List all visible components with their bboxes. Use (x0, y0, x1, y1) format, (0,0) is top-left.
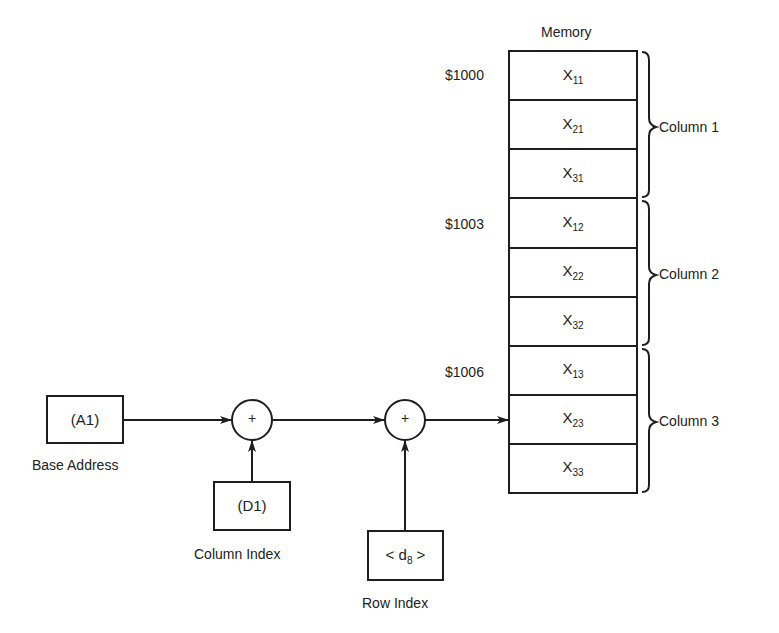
column-group-label: Column 3 (659, 413, 719, 429)
address-label: $1003 (445, 216, 484, 232)
memory-cell: X31 (509, 164, 637, 184)
cell-sub: 13 (572, 369, 583, 380)
memory-cell: X23 (509, 409, 637, 429)
address-label: $1006 (445, 364, 484, 380)
cell-sub: 22 (572, 271, 583, 282)
memory-cell: X11 (509, 66, 637, 86)
cell-sub: 21 (572, 124, 583, 135)
cell-var: X (562, 458, 572, 475)
column-register-text: (D1) (214, 497, 290, 514)
column-braces (642, 52, 656, 492)
cell-var: X (562, 213, 572, 230)
row-index-caption: Row Index (362, 595, 428, 611)
adder-1-symbol: + (242, 410, 262, 426)
memory-cell: X12 (509, 213, 637, 233)
row-displacement-text: < d8 > (368, 546, 443, 566)
column-group-label: Column 1 (659, 119, 719, 135)
row-disp-prefix: < d (386, 546, 407, 563)
memory-cell: X21 (509, 115, 637, 135)
cell-var: X (563, 66, 573, 83)
brace-column-1 (642, 52, 656, 197)
memory-cell: X13 (509, 360, 637, 380)
cell-var: X (562, 262, 572, 279)
memory-cell: X22 (509, 262, 637, 282)
base-register-text: (A1) (47, 411, 123, 428)
cell-sub: 33 (572, 467, 583, 478)
memory-title: Memory (541, 24, 592, 40)
address-label: $1000 (445, 67, 484, 83)
cell-sub: 11 (573, 75, 583, 86)
base-address-caption: Base Address (32, 457, 118, 473)
row-disp-suffix: > (412, 546, 425, 563)
adder-2-symbol: + (395, 410, 415, 426)
cell-var: X (562, 115, 572, 132)
diagram-canvas (0, 0, 779, 633)
cell-var: X (562, 409, 572, 426)
column-index-caption: Column Index (194, 546, 280, 562)
cell-sub: 32 (572, 320, 583, 331)
cell-var: X (562, 164, 572, 181)
brace-column-3 (642, 349, 656, 492)
cell-sub: 23 (572, 418, 583, 429)
cell-sub: 12 (572, 222, 583, 233)
brace-column-2 (642, 201, 656, 345)
memory-cell: X33 (509, 458, 637, 478)
cell-var: X (562, 360, 572, 377)
memory-cell: X32 (509, 311, 637, 331)
column-group-label: Column 2 (659, 266, 719, 282)
cell-sub: 31 (572, 173, 583, 184)
cell-var: X (562, 311, 572, 328)
